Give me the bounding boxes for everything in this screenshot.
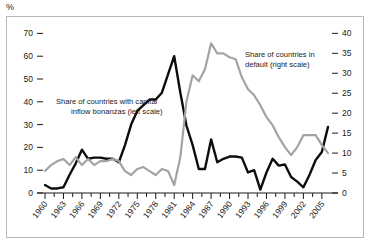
left-tick-label: 60 — [24, 51, 34, 61]
default-annotation: Share of countries in — [245, 50, 315, 59]
x-axis: 1960196319661969197219751978198119841987… — [30, 193, 338, 220]
x-tick-label: 1969 — [85, 199, 105, 220]
x-tick-label: 1966 — [67, 199, 87, 220]
x-tick-label: 1960 — [30, 199, 50, 220]
right-tick-label: 40 — [342, 28, 352, 38]
series-line-capital-inflow-bonanzas — [45, 56, 328, 189]
x-tick-label: 2002 — [288, 199, 308, 220]
left-tick-label: 0 — [28, 188, 33, 198]
right-tick-label: 15 — [342, 128, 352, 138]
right-tick-label: 35 — [342, 48, 352, 58]
x-tick-label: 1984 — [178, 199, 198, 220]
right-tick-label: 25 — [342, 88, 352, 98]
right-tick-label: 30 — [342, 68, 352, 78]
x-tick-label: 1963 — [49, 199, 69, 220]
x-tick-label: 1990 — [215, 199, 235, 220]
left-tick-label: 30 — [24, 120, 34, 130]
default-annotation-line2: default (right scale) — [245, 60, 310, 69]
x-tick-label: 1993 — [233, 199, 253, 220]
right-tick-label: 20 — [342, 108, 352, 118]
x-tick-label: 1981 — [159, 199, 179, 220]
x-tick-label: 1972 — [104, 199, 124, 220]
x-tick-label: 1978 — [141, 199, 161, 220]
left-tick-label: 40 — [24, 97, 34, 107]
right-tick-label: 5 — [342, 168, 347, 178]
x-tick-label: 1987 — [196, 199, 216, 220]
left-axis-ticks: 010203040506070 — [24, 28, 43, 198]
left-tick-label: 50 — [24, 74, 34, 84]
right-tick-label: 10 — [342, 148, 352, 158]
left-tick-label: 20 — [24, 142, 34, 152]
left-tick-label: 70 — [24, 28, 34, 38]
x-tick-label: 1975 — [122, 199, 142, 220]
bonanzas-annotation: Share of countries with capital — [56, 97, 158, 106]
right-tick-label: 0 — [342, 188, 347, 198]
x-tick-label: 1996 — [252, 199, 272, 220]
right-axis-ticks: 0510152025303540 — [332, 28, 352, 198]
chart-plot-area: 010203040506070 0510152025303540 1960196… — [0, 0, 372, 245]
x-tick-label: 2005 — [307, 199, 327, 220]
chart-figure: % 010203040506070 0510152025303540 19601… — [0, 0, 372, 245]
x-tick-label: 1999 — [270, 199, 290, 220]
left-tick-label: 10 — [24, 165, 34, 175]
bonanzas-annotation-line2: inflow bonanzas (left scale) — [71, 107, 163, 116]
